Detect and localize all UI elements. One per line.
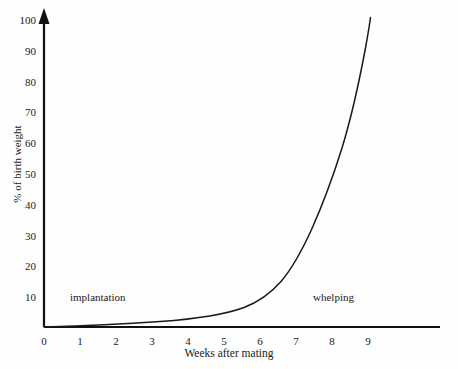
annotation-whelping: whelping xyxy=(313,291,354,303)
y-tick-label: 90 xyxy=(4,46,36,57)
y-tick-label: 100 xyxy=(4,15,36,26)
axes-group xyxy=(39,8,441,327)
x-tick-label: 7 xyxy=(293,336,299,347)
x-tick-label: 9 xyxy=(365,336,371,347)
x-tick-label: 6 xyxy=(257,336,263,347)
x-axis-title: Weeks after mating xyxy=(0,347,458,359)
foetal-growth-curve xyxy=(44,18,371,328)
y-tick-label: 10 xyxy=(4,292,36,303)
chart-plot-area xyxy=(0,0,458,369)
y-axis-arrowhead xyxy=(39,8,50,24)
x-tick-label: 1 xyxy=(77,336,83,347)
x-tick-label: 2 xyxy=(113,336,119,347)
x-tick-label: 3 xyxy=(149,336,155,347)
y-axis-title: % of birth weight xyxy=(11,109,23,219)
annotation-implantation: implantation xyxy=(70,291,126,303)
y-tick-label: 30 xyxy=(4,231,36,242)
y-tick-label: 20 xyxy=(4,261,36,272)
x-tick-label: 5 xyxy=(221,336,227,347)
x-tick-label: 4 xyxy=(185,336,191,347)
growth-curve-chart: 100 90 80 70 60 50 40 30 20 10 0 1 2 3 4… xyxy=(0,0,458,369)
y-tick-label: 80 xyxy=(4,77,36,88)
x-tick-label: 8 xyxy=(329,336,335,347)
x-tick-label: 0 xyxy=(41,336,47,347)
